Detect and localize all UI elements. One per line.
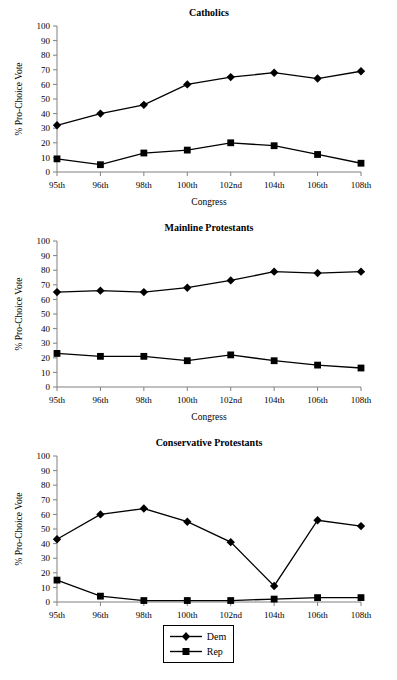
data-point-marker-diamond: [53, 288, 61, 296]
legend-marker-diamond-icon: [169, 630, 203, 643]
x-axis-tick-label: 98th: [136, 610, 153, 620]
chart-title: Mainline Protestants: [165, 222, 254, 233]
y-axis-tick-label: 20: [41, 138, 51, 148]
x-axis-tick-label: 95th: [49, 610, 66, 620]
data-point-marker-square: [184, 147, 191, 154]
legend-item-rep: Rep: [169, 644, 226, 659]
x-axis-tick-label: 108th: [351, 610, 372, 620]
data-point-marker-diamond: [270, 69, 278, 77]
data-point-marker-diamond: [357, 522, 365, 530]
x-axis-tick-label: 100th: [177, 180, 198, 190]
data-point-marker-diamond: [183, 518, 191, 526]
x-axis-tick-label: 106th: [307, 395, 328, 405]
chart-svg: Catholics010203040506070809010095th96th9…: [0, 0, 397, 215]
y-axis-title: % Pro-Choice Vote: [14, 62, 24, 135]
x-axis-tick-label: 95th: [49, 180, 66, 190]
data-point-marker-square: [271, 596, 278, 603]
data-point-marker-diamond: [227, 276, 235, 284]
y-axis-tick-label: 100: [37, 451, 51, 461]
data-point-marker-diamond: [357, 67, 365, 75]
data-point-marker-diamond: [140, 101, 148, 109]
y-axis-tick-label: 100: [37, 21, 51, 31]
legend-marker-square-icon: [169, 645, 203, 658]
data-point-marker-diamond: [183, 284, 191, 292]
data-point-marker-square: [358, 594, 365, 601]
y-axis-tick-label: 80: [41, 265, 51, 275]
legend-label-rep: Rep: [203, 647, 223, 657]
data-point-marker-square: [227, 351, 234, 358]
x-axis-tick-label: 96th: [92, 610, 109, 620]
y-axis-tick-label: 30: [41, 338, 51, 348]
y-axis-tick-label: 0: [46, 167, 51, 177]
data-point-marker-diamond: [313, 269, 321, 277]
y-axis-tick-label: 40: [41, 109, 51, 119]
data-point-marker-square: [314, 594, 321, 601]
y-axis-tick-label: 40: [41, 539, 51, 549]
data-point-marker-square: [97, 593, 104, 600]
y-axis-title: % Pro-Choice Vote: [14, 277, 24, 350]
data-point-marker-square: [54, 155, 61, 162]
y-axis-tick-label: 90: [41, 466, 51, 476]
data-point-marker-square: [314, 151, 321, 158]
data-point-marker-square: [140, 597, 147, 604]
x-axis-tick-label: 102nd: [219, 610, 242, 620]
y-axis-tick-label: 50: [41, 94, 51, 104]
y-axis-tick-label: 50: [41, 309, 51, 319]
data-point-marker-square: [54, 577, 61, 584]
x-axis-tick-label: 106th: [307, 610, 328, 620]
data-point-marker-diamond: [96, 286, 104, 294]
y-axis-tick-label: 30: [41, 553, 51, 563]
chart-panel-mainline-protestants: Mainline Protestants01020304050607080901…: [0, 215, 397, 430]
y-axis-tick-label: 10: [41, 368, 51, 378]
legend-label-dem: Dem: [203, 632, 226, 642]
y-axis-tick-label: 20: [41, 353, 51, 363]
y-axis-tick-label: 40: [41, 324, 51, 334]
data-point-marker-square: [140, 353, 147, 360]
chart-svg: Mainline Protestants01020304050607080901…: [0, 215, 397, 430]
y-axis-tick-label: 70: [41, 65, 51, 75]
data-point-marker-diamond: [313, 516, 321, 524]
data-point-marker-square: [54, 350, 61, 357]
y-axis-tick-label: 10: [41, 583, 51, 593]
x-axis-tick-label: 104th: [264, 395, 285, 405]
data-point-marker-square: [140, 150, 147, 157]
data-point-marker-square: [227, 597, 234, 604]
data-point-marker-square: [314, 362, 321, 369]
x-axis-tick-label: 102nd: [219, 180, 242, 190]
data-point-marker-diamond: [140, 288, 148, 296]
data-point-marker-diamond: [96, 109, 104, 117]
chart-panel-conservative-protestants: Conservative Protestants0102030405060708…: [0, 430, 397, 645]
chart-title: Catholics: [189, 7, 229, 18]
data-point-marker-diamond: [96, 510, 104, 518]
x-axis-tick-label: 108th: [351, 180, 372, 190]
x-axis-tick-label: 104th: [264, 180, 285, 190]
chart-panel-catholics: Catholics010203040506070809010095th96th9…: [0, 0, 397, 215]
y-axis-tick-label: 90: [41, 251, 51, 261]
x-axis-tick-label: 98th: [136, 180, 153, 190]
data-point-marker-square: [358, 365, 365, 372]
legend-box: Dem Rep: [163, 625, 234, 663]
data-point-marker-diamond: [357, 267, 365, 275]
x-axis-title: Congress: [191, 197, 227, 207]
x-axis-tick-label: 108th: [351, 395, 372, 405]
y-axis-tick-label: 0: [46, 382, 51, 392]
y-axis-tick-label: 100: [37, 236, 51, 246]
x-axis-tick-label: 100th: [177, 610, 198, 620]
x-axis-tick-label: 102nd: [219, 395, 242, 405]
y-axis-tick-label: 10: [41, 153, 51, 163]
x-axis-tick-label: 96th: [92, 395, 109, 405]
data-point-marker-square: [271, 142, 278, 149]
data-point-marker-square: [271, 357, 278, 364]
y-axis-tick-label: 90: [41, 36, 51, 46]
data-point-marker-diamond: [183, 80, 191, 88]
x-axis-tick-label: 100th: [177, 395, 198, 405]
y-axis-tick-label: 70: [41, 495, 51, 505]
data-point-marker-square: [97, 161, 104, 168]
y-axis-title: % Pro-Choice Vote: [14, 492, 24, 565]
figure-pro-choice-vote: Catholics010203040506070809010095th96th9…: [0, 0, 397, 680]
y-axis-tick-label: 60: [41, 510, 51, 520]
x-axis-tick-label: 95th: [49, 395, 66, 405]
data-point-marker-diamond: [313, 74, 321, 82]
data-point-marker-square: [358, 160, 365, 167]
chart-title: Conservative Protestants: [156, 437, 263, 448]
